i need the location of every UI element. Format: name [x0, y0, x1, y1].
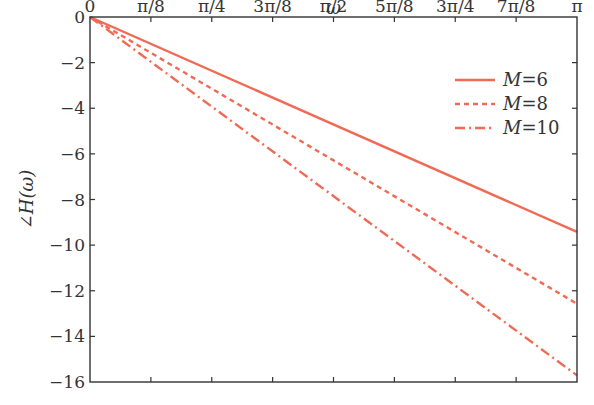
y-tick-label: −16: [49, 372, 85, 392]
y-axis-label: ∠H(ω): [16, 170, 37, 230]
y-tick-label: −4: [60, 98, 85, 118]
y-axis-ticks: 0−2−4−6−8−10−12−14−16: [49, 7, 577, 392]
x-tick-label: 0: [85, 0, 96, 16]
legend: M=6M=8M=10: [455, 69, 559, 138]
x-tick-label: π/8: [137, 0, 165, 16]
x-tick-label: 3π/8: [253, 0, 292, 16]
y-tick-label: 0: [74, 7, 85, 27]
series-line-m8: [90, 17, 577, 304]
x-tick-label: 7π/8: [497, 0, 536, 16]
x-tick-label: π: [571, 0, 582, 16]
legend-label: M=8: [502, 93, 548, 114]
y-tick-label: −12: [49, 281, 85, 301]
y-tick-label: −6: [60, 144, 85, 164]
x-axis-ticks: 0π/8π/43π/8π/25π/83π/47π/8π: [85, 0, 583, 382]
x-tick-label: π/2: [320, 0, 348, 16]
x-tick-label: π/4: [198, 0, 226, 16]
y-tick-label: −2: [60, 53, 85, 73]
y-tick-label: −10: [49, 235, 85, 255]
y-tick-label: −14: [49, 326, 85, 346]
phase-response-chart: ω ∠H(ω) 0π/8π/43π/8π/25π/83π/47π/8π 0−2−…: [0, 0, 594, 405]
y-tick-label: −8: [60, 190, 85, 210]
x-tick-label: 3π/4: [436, 0, 475, 16]
legend-label: M=6: [502, 69, 548, 90]
legend-label: M=10: [502, 117, 559, 138]
x-tick-label: 5π/8: [375, 0, 414, 16]
y-axis-title: ∠H(ω): [16, 170, 37, 230]
